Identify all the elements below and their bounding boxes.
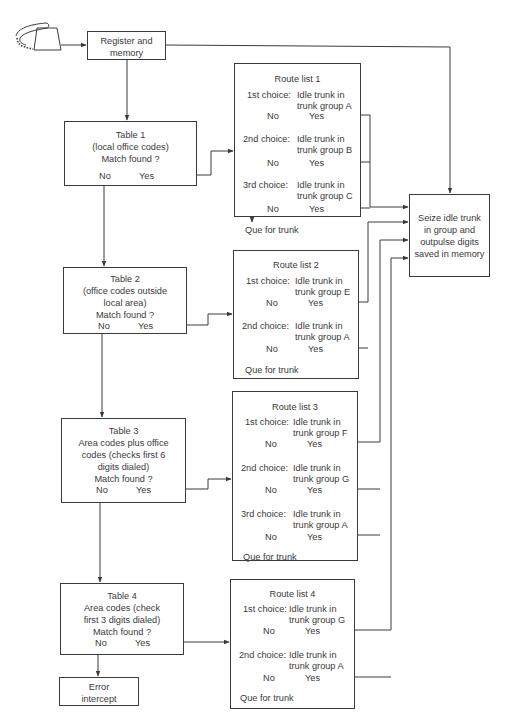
rl3-c2-yes: Yes	[307, 484, 322, 496]
rl2-c2-no: No	[266, 343, 278, 355]
rl1-c3-no: No	[267, 203, 279, 215]
rl1-c3-line2: trunk group C	[297, 190, 353, 202]
table-4-yes: Yes	[135, 637, 150, 649]
rl1-c3-yes: Yes	[309, 203, 324, 215]
table-1-yes: Yes	[139, 170, 154, 182]
rl2-c1-no: No	[266, 297, 278, 309]
register-memory-box: Register and memory	[87, 31, 166, 60]
table-2-no: No	[98, 320, 110, 332]
telephone-icon	[16, 23, 61, 50]
rl1-c1-no: No	[267, 110, 279, 122]
error-intercept-box: Error intercept	[59, 677, 139, 706]
table-1-title: Table 1	[65, 129, 196, 141]
rl1-fallback: Que for trunk	[245, 224, 299, 236]
route-list-4-title: Route list 4	[231, 588, 354, 600]
table-2-question: Match found ?	[64, 309, 186, 321]
table-3-question: Match found ?	[62, 473, 185, 485]
route-list-4-box: Route list 4 1st choice: Idle trunk in t…	[230, 579, 355, 709]
rl1-c2-line2: trunk group B	[297, 144, 352, 156]
rl3-c3-yes: Yes	[307, 531, 322, 543]
table-4-question: Match found ?	[61, 626, 183, 638]
table-3-desc-2: codes (checks first 6	[62, 449, 185, 461]
table-3-box: Table 3 Area codes plus office codes (ch…	[61, 418, 186, 503]
route-list-3-title: Route list 3	[233, 401, 357, 413]
rl1-c2-yes: Yes	[309, 157, 324, 169]
register-line2: memory	[88, 47, 165, 59]
route-list-1-box: Route list 1 1st choice: Idle trunk in t…	[234, 63, 361, 217]
error-line1: Error	[60, 681, 138, 693]
seize-line4: saved in memory	[410, 248, 489, 260]
rl4-c2-line2: trunk group A	[289, 660, 344, 672]
rl4-c2-no: No	[263, 672, 275, 684]
table-3-desc-3: digits dialed)	[62, 461, 185, 473]
table-4-box: Table 4 Area codes (check first 3 digits…	[60, 583, 184, 655]
table-1-question: Match found ?	[65, 153, 196, 165]
rl4-c2-label: 2nd choice:	[239, 649, 286, 661]
rl2-c1-label: 1st choice:	[246, 275, 290, 287]
rl4-c1-yes: Yes	[305, 625, 320, 637]
seize-trunk-box: Seize idle trunk in group and outpulse d…	[409, 194, 490, 277]
error-line2: intercept	[60, 693, 138, 705]
rl3-c2-label: 2nd choice:	[241, 462, 288, 474]
rl4-c1-label: 1st choice:	[243, 603, 287, 615]
seize-line2: in group and	[410, 224, 489, 236]
table-4-desc-2: first 3 digits dialed)	[61, 614, 183, 626]
rl2-c2-line2: trunk group A	[295, 331, 350, 343]
rl1-c2-no: No	[267, 157, 279, 169]
route-list-2-box: Route list 2 1st choice: Idle trunk in t…	[233, 250, 359, 379]
rl2-c2-label: 2nd choice:	[242, 320, 289, 332]
rl1-c3-label: 3rd choice:	[243, 179, 288, 191]
seize-line3: outpulse digits	[410, 236, 489, 248]
rl3-c3-no: No	[265, 531, 277, 543]
rl3-c1-label: 1st choice:	[245, 416, 289, 428]
rl3-c1-yes: Yes	[307, 438, 322, 450]
route-list-2-title: Route list 2	[234, 259, 358, 271]
rl4-c1-no: No	[263, 625, 275, 637]
table-3-desc-1: Area codes plus office	[62, 437, 185, 449]
route-list-3-box: Route list 3 1st choice: Idle trunk in t…	[232, 391, 358, 561]
rl4-fallback: Que for trunk	[240, 692, 294, 704]
rl1-c2-label: 2nd choice:	[243, 133, 290, 145]
rl3-c2-no: No	[265, 484, 277, 496]
register-line1: Register and	[88, 35, 165, 47]
table-3-no: No	[96, 484, 108, 496]
table-2-desc-2: local area)	[64, 297, 186, 309]
rl2-c1-yes: Yes	[308, 297, 323, 309]
table-4-title: Table 4	[61, 590, 183, 602]
table-2-box: Table 2 (office codes outside local area…	[63, 267, 187, 334]
rl3-c3-line2: trunk group A	[293, 519, 348, 531]
table-3-title: Table 3	[62, 425, 185, 437]
rl3-c3-label: 3rd choice:	[241, 508, 286, 520]
table-1-desc: (local office codes)	[65, 141, 196, 153]
rl3-fallback: Que for trunk	[243, 551, 297, 563]
table-2-yes: Yes	[138, 320, 153, 332]
table-1-no: No	[99, 170, 111, 182]
rl2-fallback: Que for trunk	[245, 364, 299, 376]
table-4-no: No	[95, 637, 107, 649]
table-3-yes: Yes	[136, 484, 151, 496]
rl1-c1-yes: Yes	[309, 110, 324, 122]
rl2-c2-yes: Yes	[308, 343, 323, 355]
table-2-desc-1: (office codes outside	[64, 285, 186, 297]
route-list-1-title: Route list 1	[235, 73, 360, 85]
rl1-c1-label: 1st choice:	[247, 89, 291, 101]
rl1-c1-line2: trunk group A	[297, 100, 352, 112]
table-1-box: Table 1 (local office codes) Match found…	[64, 121, 197, 186]
table-2-title: Table 2	[64, 273, 186, 285]
rl3-c1-no: No	[265, 438, 277, 450]
table-4-desc-1: Area codes (check	[61, 602, 183, 614]
rl4-c2-yes: Yes	[305, 672, 320, 684]
seize-line1: Seize idle trunk	[410, 212, 489, 224]
